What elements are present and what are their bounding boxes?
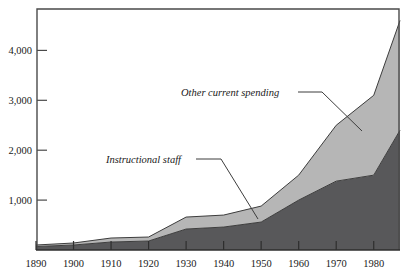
x-axis-tick-label: 1950: [251, 258, 272, 269]
y-axis-tick-label: 3,000: [8, 95, 32, 106]
y-axis-tick-label: 2,000: [8, 145, 32, 156]
x-axis-tick-label: 1960: [288, 258, 309, 269]
x-axis-tick-label: 1900: [63, 258, 84, 269]
y-axis-tick-label: 1,000: [8, 195, 32, 206]
chart-container: 1,0002,0003,0004,000 1890190019101920193…: [0, 0, 409, 276]
annotation-label-other-current-spending: Other current spending: [181, 87, 279, 98]
x-axis-tick-label: 1920: [138, 258, 159, 269]
x-axis-tick-label: 1930: [176, 258, 197, 269]
annotation-label-instructional-staff: Instructional staff: [105, 154, 183, 165]
x-axis-tick-label: 1940: [213, 258, 234, 269]
x-axis-tick-label: 1890: [26, 258, 47, 269]
x-axis-tick-label: 1910: [101, 258, 122, 269]
x-axis-tick-label: 1970: [326, 258, 347, 269]
stacked-area-chart: 1,0002,0003,0004,000 1890190019101920193…: [0, 0, 409, 276]
y-axis-tick-label: 4,000: [8, 45, 32, 56]
x-axis-tick-labels: 1890190019101920193019401950196019701980: [26, 258, 385, 269]
y-axis-tick-labels: 1,0002,0003,0004,000: [8, 45, 32, 206]
x-axis-tick-label: 1980: [363, 258, 384, 269]
